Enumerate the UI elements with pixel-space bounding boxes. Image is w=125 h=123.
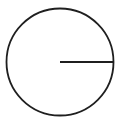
geometry-diagram-svg bbox=[0, 0, 125, 123]
geometry-figure-canvas bbox=[0, 0, 125, 123]
